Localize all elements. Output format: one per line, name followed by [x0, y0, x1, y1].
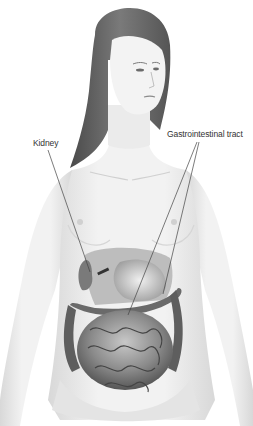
anatomy-illustration	[0, 0, 253, 426]
kidney-label: Kidney	[33, 138, 58, 148]
face	[110, 36, 165, 115]
gastrointestinal-tract-label: Gastrointestinal tract	[167, 129, 243, 139]
